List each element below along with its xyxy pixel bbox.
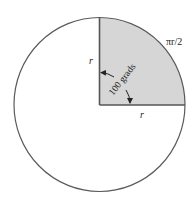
circle-diagram: r r πr/2 100 grads xyxy=(0,0,195,202)
radius-vertical-label: r xyxy=(89,55,93,66)
arc-length-label: πr/2 xyxy=(166,36,182,47)
radius-horizontal-label: r xyxy=(140,109,144,120)
